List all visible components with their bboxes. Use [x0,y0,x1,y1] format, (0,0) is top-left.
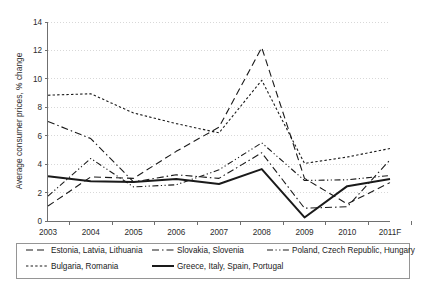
x-tick-label-2010: 2010 [338,228,357,237]
y-tick-label-2: 2 [37,189,42,198]
y-tick-label-14: 14 [33,18,43,27]
y-tick-label-12: 12 [33,46,43,55]
x-tick-label-2004: 2004 [82,228,101,237]
series-lines [48,48,390,218]
series-line-4 [48,169,390,217]
legend-label-0: Estonia, Latvia, Lithuania [51,246,143,255]
legend: Estonia, Latvia, LithuaniaSlovakia, Slov… [17,244,416,279]
y-tick-label-10: 10 [33,75,43,84]
y-tick-label-0: 0 [37,217,42,226]
line-chart-svg: 02468101214 2003200420052006200720082009… [0,0,426,288]
y-axis: 02468101214 [33,18,48,226]
series-line-2 [48,143,390,196]
x-tick-label-2007: 2007 [210,228,229,237]
x-tick-label-2005: 2005 [124,228,143,237]
chart-figure: 02468101214 2003200420052006200720082009… [0,0,426,288]
legend-label-3: Bulgaria, Romania [51,262,119,271]
y-tick-label-8: 8 [37,103,42,112]
x-tick-label-2006: 2006 [167,228,186,237]
series-line-3 [48,80,390,163]
x-tick-label-2003: 2003 [39,228,58,237]
legend-label-1: Slovakia, Slovenia [177,246,244,255]
y-tick-label-4: 4 [37,160,42,169]
x-axis: 200320042005200620072008200920102011F [39,221,411,237]
x-tick-label-2009: 2009 [295,228,314,237]
x-tick-label-2008: 2008 [253,228,272,237]
y-tick-label-6: 6 [37,132,42,141]
x-tick-label-2011F: 2011F [379,228,402,237]
series-line-1 [48,122,390,209]
legend-label-4: Greece, Italy, Spain, Portugal [177,262,284,271]
legend-label-2: Poland, Czech Republic, Hungary [292,246,416,255]
y-axis-title: Average consumer prices, % change [14,52,24,189]
grid-lines [48,22,390,221]
